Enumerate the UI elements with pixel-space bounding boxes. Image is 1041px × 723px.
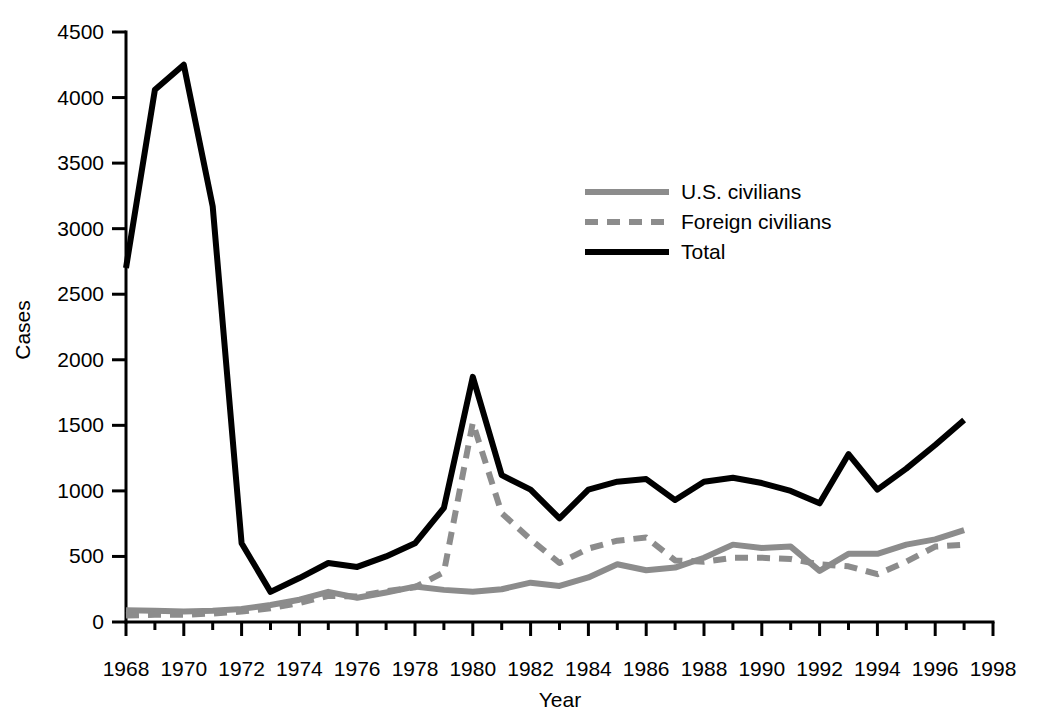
y-tick-label: 2500 — [57, 282, 104, 305]
x-tick-label: 1972 — [218, 657, 265, 680]
y-tick-label: 1500 — [57, 413, 104, 436]
x-tick-label: 1982 — [507, 657, 554, 680]
legend-label-total: Total — [681, 240, 725, 263]
x-tick-label: 1978 — [392, 657, 439, 680]
x-tick-label: 1984 — [565, 657, 612, 680]
x-tick-label: 1992 — [796, 657, 843, 680]
x-tick-label: 1980 — [449, 657, 496, 680]
x-tick-label: 1976 — [334, 657, 381, 680]
x-tick-label: 1990 — [738, 657, 785, 680]
x-tick-label: 1994 — [854, 657, 901, 680]
x-tick-label: 1996 — [912, 657, 959, 680]
x-tick-label: 1970 — [160, 657, 207, 680]
y-tick-label: 2000 — [57, 348, 104, 371]
y-tick-label: 4000 — [57, 86, 104, 109]
y-axis-title: Cases — [11, 300, 34, 360]
x-tick-label: 1988 — [681, 657, 728, 680]
y-tick-label: 3000 — [57, 217, 104, 240]
x-tick-label: 1986 — [623, 657, 670, 680]
x-tick-label: 1974 — [276, 657, 323, 680]
legend-label-foreign-civilians: Foreign civilians — [681, 210, 832, 233]
y-tick-label: 500 — [69, 544, 104, 567]
y-tick-label: 0 — [92, 610, 104, 633]
x-axis-title: Year — [539, 688, 581, 711]
y-tick-label: 4500 — [57, 20, 104, 43]
y-tick-label: 1000 — [57, 479, 104, 502]
line-chart-figure: 050010001500200025003000350040004500 196… — [0, 0, 1041, 723]
chart-container: 050010001500200025003000350040004500 196… — [0, 0, 1041, 723]
y-tick-label: 3500 — [57, 151, 104, 174]
x-tick-label: 1968 — [103, 657, 150, 680]
legend-label-u-s-civilians: U.S. civilians — [681, 180, 801, 203]
x-tick-label: 1998 — [970, 657, 1017, 680]
